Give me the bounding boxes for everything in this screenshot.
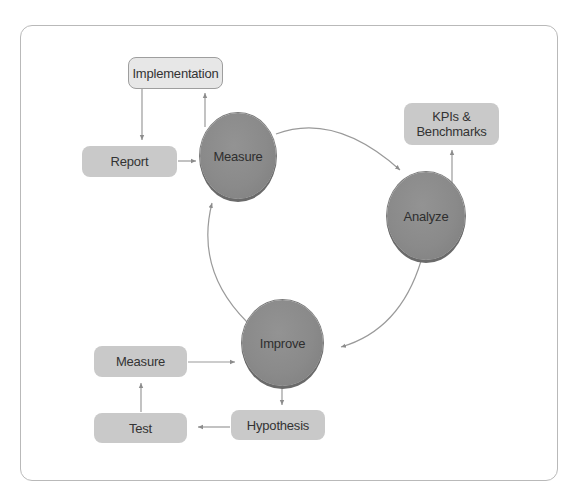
box-test: Test (94, 413, 187, 443)
box-report-label: Report (111, 154, 149, 169)
arrow-analyze-to-improve (341, 261, 421, 347)
box-hypothesis: Hypothesis (231, 410, 325, 440)
node-measure: Measure (200, 113, 276, 199)
node-analyze-label: Analyze (404, 209, 449, 224)
box-implementation-label: Implementation (132, 66, 218, 81)
box-report: Report (82, 146, 177, 177)
node-improve: Improve (242, 300, 323, 386)
box-hypothesis-label: Hypothesis (247, 418, 309, 433)
box-measure: Measure (94, 346, 187, 377)
node-measure-label: Measure (213, 149, 262, 164)
box-test-label: Test (129, 421, 152, 436)
node-analyze: Analyze (387, 172, 465, 260)
box-implementation: Implementation (128, 57, 223, 89)
arrow-measure-to-analyze (276, 128, 400, 170)
arrow-improve-to-measure (208, 203, 247, 322)
box-kpis-label: KPIs & Benchmarks (416, 109, 486, 139)
node-improve-label: Improve (260, 336, 306, 351)
box-kpis-benchmarks: KPIs & Benchmarks (404, 103, 499, 145)
box-measure-label: Measure (116, 354, 165, 369)
